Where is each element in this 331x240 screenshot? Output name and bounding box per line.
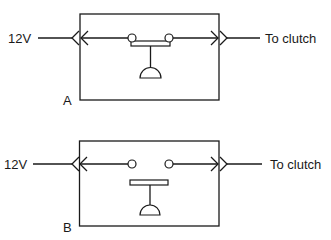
terminal-left-b xyxy=(128,160,136,168)
switch-diagram: 12V To clutch A 12V xyxy=(0,0,331,240)
terminal-left-a xyxy=(128,34,136,42)
plunger-button-a xyxy=(140,68,161,79)
terminal-right-a xyxy=(165,34,173,42)
output-connector-a xyxy=(220,31,227,45)
terminal-right-b xyxy=(165,160,173,168)
output-connector-b xyxy=(220,157,227,171)
contact-bar-a xyxy=(131,41,170,46)
panel-b: 12V To clutch B xyxy=(4,141,321,235)
switch-housing-a xyxy=(80,14,219,100)
panel-label-b: B xyxy=(63,220,72,235)
input-connector-b xyxy=(72,157,79,171)
plunger-button-b xyxy=(140,205,160,215)
output-label-a: To clutch xyxy=(265,31,316,46)
output-label-b: To clutch xyxy=(270,157,321,172)
input-connector-a xyxy=(72,31,79,45)
input-label-a: 12V xyxy=(8,31,31,46)
panel-label-a: A xyxy=(63,93,72,108)
contact-bar-b xyxy=(130,180,168,185)
panel-a: 12V To clutch A xyxy=(8,14,316,108)
input-label-b: 12V xyxy=(4,157,27,172)
